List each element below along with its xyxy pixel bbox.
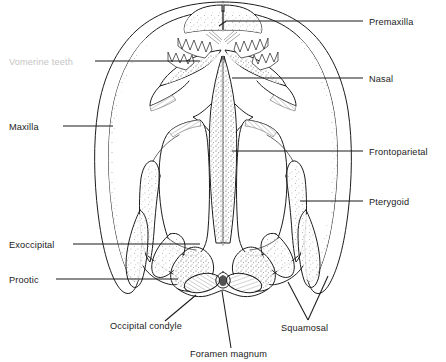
skull-diagram-canvas: Premaxilla Nasal Frontoparietal Pterygoi… — [0, 0, 446, 362]
orbit-right-opening — [237, 120, 288, 256]
label-squamosal: Squamosal — [281, 323, 328, 333]
label-occipital-condyle: Occipital condyle — [110, 321, 182, 331]
orbit-left-opening — [159, 120, 210, 256]
label-prootic: Prootic — [9, 275, 39, 285]
label-frontoparietal: Frontoparietal — [369, 147, 428, 157]
label-exoccipital: Exoccipital — [9, 240, 55, 250]
label-pterygoid: Pterygoid — [369, 197, 409, 207]
label-foramen-magnum: Foramen magnum — [190, 349, 267, 359]
label-maxilla: Maxilla — [9, 122, 39, 132]
skull-diagram-figure: Premaxilla Nasal Frontoparietal Pterygoi… — [0, 0, 446, 362]
label-vomerine-teeth: Vomerine teeth — [9, 57, 73, 67]
label-premaxilla: Premaxilla — [369, 17, 414, 27]
label-nasal: Nasal — [369, 74, 393, 84]
